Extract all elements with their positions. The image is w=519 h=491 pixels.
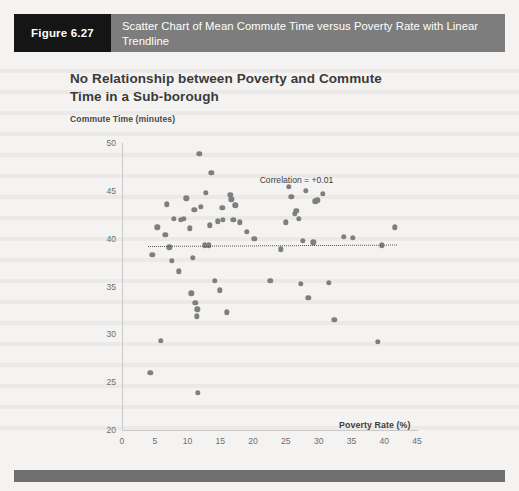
- chart-title: No Relationship between Poverty and Comm…: [70, 70, 400, 106]
- scatter-point: [305, 295, 310, 300]
- scatter-point: [195, 390, 200, 395]
- x-tick-label: 35: [347, 436, 357, 446]
- figure-number-block: Figure 6.27: [14, 14, 111, 52]
- scatter-point: [237, 220, 242, 225]
- scatter-point: [229, 197, 234, 202]
- scatter-point: [375, 339, 380, 344]
- x-tick-label: 10: [183, 436, 193, 446]
- scatter-point: [190, 255, 195, 260]
- scatter-point: [233, 202, 238, 207]
- scatter-point: [197, 151, 202, 156]
- scatter-point: [326, 280, 331, 285]
- scatter-point: [169, 258, 174, 263]
- linear-trendline: [148, 244, 397, 246]
- scatter-point: [198, 204, 203, 209]
- scatter-point: [244, 229, 249, 234]
- figure-caption-text: Scatter Chart of Mean Commute Time versu…: [111, 14, 505, 52]
- y-axis-line: [122, 143, 123, 430]
- scatter-point: [212, 278, 217, 283]
- scatter-point: [296, 216, 301, 221]
- y-tick-label: 20: [106, 425, 116, 435]
- scatter-point: [184, 196, 189, 201]
- x-tick-label: 0: [120, 436, 125, 446]
- x-tick-label: 25: [281, 436, 291, 446]
- figure-page: Figure 6.27 Scatter Chart of Mean Commut…: [0, 0, 519, 491]
- scatter-point: [320, 191, 325, 196]
- scatter-point: [252, 236, 257, 241]
- x-tick-label: 20: [248, 436, 258, 446]
- y-tick-label: 40: [106, 234, 116, 244]
- scatter-point: [300, 238, 305, 243]
- scatter-point: [195, 307, 200, 312]
- chart-container: No Relationship between Poverty and Comm…: [14, 56, 505, 446]
- scatter-point: [176, 268, 181, 273]
- figure-caption-bar: Figure 6.27 Scatter Chart of Mean Commut…: [14, 14, 505, 52]
- y-tick-label: 45: [106, 186, 116, 196]
- scatter-point: [224, 310, 229, 315]
- scatter-point: [298, 281, 303, 286]
- scatter-point: [181, 216, 186, 221]
- scatter-point: [189, 290, 194, 295]
- scatter-point: [392, 224, 397, 229]
- scatter-point: [158, 338, 163, 343]
- scatter-point: [208, 170, 213, 175]
- scatter-point: [207, 223, 212, 228]
- figure-number-label: Figure 6.27: [31, 27, 94, 39]
- scatter-point: [164, 202, 169, 207]
- scatter-point: [278, 246, 283, 251]
- scatter-point: [350, 235, 355, 240]
- y-tick-label: 30: [106, 329, 116, 339]
- scatter-point: [163, 232, 168, 237]
- scatter-point: [194, 313, 199, 318]
- y-tick-label: 50: [106, 138, 116, 148]
- page-bottom-rule: [14, 470, 505, 482]
- x-tick-label: 30: [314, 436, 324, 446]
- x-tick-label: 40: [379, 436, 389, 446]
- scatter-point: [294, 208, 299, 213]
- scatter-point: [231, 217, 236, 222]
- x-tick-label: 45: [412, 436, 422, 446]
- x-tick-label: 5: [152, 436, 157, 446]
- y-axis-title: Commute Time (minutes): [70, 114, 175, 124]
- scatter-point: [193, 300, 198, 305]
- correlation-annotation: Correlation = +0.01: [260, 175, 334, 185]
- scatter-point: [187, 225, 192, 230]
- scatter-point: [191, 207, 196, 212]
- scatter-point: [147, 370, 152, 375]
- scatter-point: [217, 288, 222, 293]
- scatter-point: [315, 198, 320, 203]
- x-tick-label: 15: [216, 436, 226, 446]
- scatter-point: [332, 317, 337, 322]
- y-tick-label: 25: [106, 377, 116, 387]
- x-axis-line: [122, 430, 418, 431]
- scatter-point: [155, 224, 160, 229]
- scatter-point: [171, 216, 176, 221]
- scatter-point: [149, 252, 154, 257]
- scatter-point: [220, 205, 225, 210]
- scatter-point: [283, 220, 288, 225]
- scatter-point: [286, 184, 291, 189]
- scatter-point: [341, 234, 346, 239]
- scatter-point: [220, 217, 225, 222]
- scatter-point: [288, 194, 293, 199]
- y-tick-label: 35: [106, 282, 116, 292]
- scatter-point: [267, 278, 272, 283]
- scatter-point: [303, 188, 308, 193]
- scatter-point: [203, 190, 208, 195]
- plot-area: 20253035404550 051015202530354045 Correl…: [122, 143, 417, 430]
